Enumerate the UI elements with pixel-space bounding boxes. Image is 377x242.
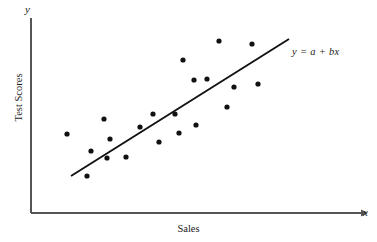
data-point [191, 77, 196, 82]
data-point [101, 116, 106, 121]
data-point [156, 139, 161, 144]
data-point [249, 41, 254, 46]
y-axis-title: Test Scores [13, 55, 24, 141]
data-point [224, 104, 229, 109]
data-point [150, 111, 155, 116]
data-point [84, 173, 89, 178]
data-point [180, 57, 185, 62]
data-point [137, 124, 142, 129]
data-point [193, 122, 198, 127]
plot-canvas [0, 0, 377, 242]
regression-equation-label: y = a + bx [292, 46, 340, 57]
data-point [172, 111, 177, 116]
regression-line [71, 39, 289, 176]
data-point [204, 76, 209, 81]
y-axis-tip-label: y [25, 4, 30, 15]
x-axis-title: Sales [0, 223, 377, 234]
data-point [107, 136, 112, 141]
x-axis-tip-label: x [363, 207, 368, 218]
data-point [123, 154, 128, 159]
data-point [231, 84, 236, 89]
regression-line-segment [71, 39, 289, 176]
data-points [64, 38, 260, 178]
data-point [216, 38, 221, 43]
scatter-plot-figure: y x Test Scores Sales y = a + bx [0, 0, 377, 242]
data-point [64, 131, 69, 136]
data-point [88, 148, 93, 153]
data-point [255, 81, 260, 86]
data-point [176, 130, 181, 135]
data-point [104, 155, 109, 160]
